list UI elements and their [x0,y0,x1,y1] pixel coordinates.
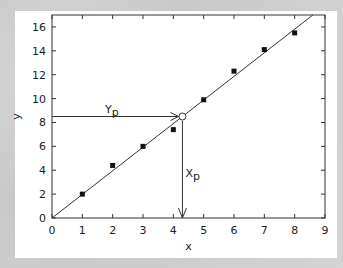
x-tick-label: 1 [79,224,86,237]
y-tick-label: 6 [39,140,46,153]
x-tick-label: 6 [231,224,238,237]
y-tick-label: 4 [39,164,46,177]
x-tick-label: 9 [322,224,329,237]
data-point [110,163,115,168]
x-axis-label: x [185,240,192,253]
x-tick-label: 2 [109,224,116,237]
data-point [141,144,146,149]
x-tick-label: 8 [291,224,298,237]
y-tick-label: 0 [39,212,46,225]
scatter-chart: 01234567890246810121416xyYpXp [0,0,343,268]
x-tick-label: 4 [170,224,177,237]
y-axis-label: y [10,113,23,120]
x-tick-label: 7 [261,224,268,237]
data-point [201,97,206,102]
data-point [262,47,267,52]
x-tick-label: 5 [200,224,207,237]
y-tick-label: 8 [39,116,46,129]
y-tick-label: 16 [32,21,46,34]
x-tick-label: 3 [140,224,147,237]
y-tick-label: 14 [32,45,46,58]
intersection-circle-icon [179,113,186,120]
data-point [232,69,237,74]
y-tick-label: 2 [39,188,46,201]
data-point [171,127,176,132]
x-tick-label: 0 [49,224,56,237]
y-tick-label: 12 [32,69,46,82]
y-tick-label: 10 [32,93,46,106]
data-point [292,30,297,35]
data-point [80,192,85,197]
xp-label: Xp [185,167,200,183]
